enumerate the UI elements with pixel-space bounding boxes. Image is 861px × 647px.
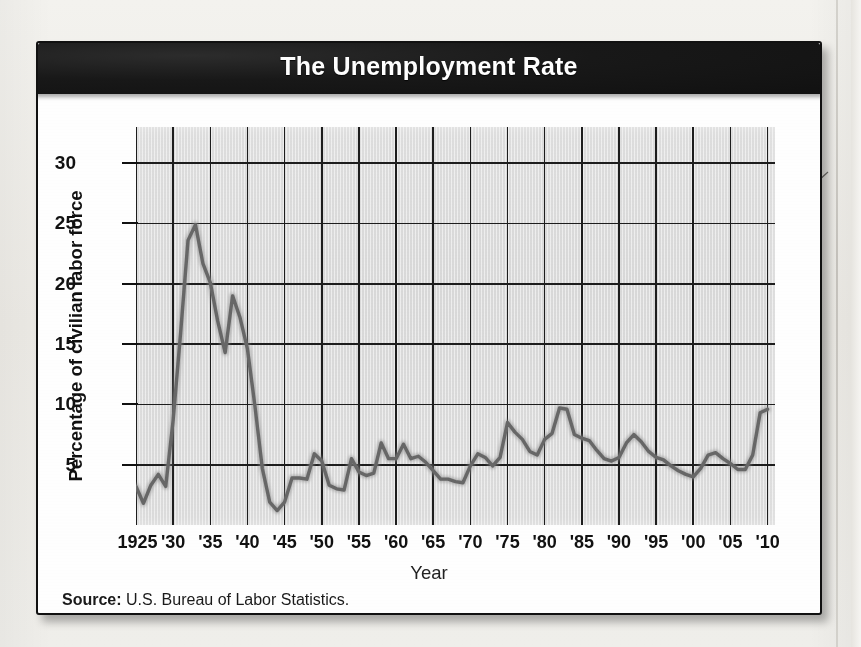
source-note: Source: U.S. Bureau of Labor Statistics. <box>62 591 349 609</box>
x-axis-tick-label: '45 <box>272 532 296 553</box>
y-axis-tick-label: 5 <box>38 454 76 476</box>
x-axis-tick-label: '75 <box>495 532 519 553</box>
figure-card: The Unemployment Rate Percentage of civi… <box>36 41 822 615</box>
source-text: U.S. Bureau of Labor Statistics. <box>122 591 350 608</box>
x-axis-ticks: 1925'30'35'40'45'50'55'60'65'70'75'80'85… <box>122 532 790 558</box>
x-axis-tick-label: '55 <box>347 532 371 553</box>
y-axis-tick-mark <box>122 403 138 405</box>
page-title: The Unemployment Rate <box>38 43 820 94</box>
x-axis-tick-label: '70 <box>458 532 482 553</box>
y-axis-tick-label: 15 <box>38 333 76 355</box>
x-axis-tick-label: '50 <box>310 532 334 553</box>
plot-area <box>136 127 775 525</box>
x-axis-tick-label: '90 <box>607 532 631 553</box>
x-axis-tick-label: '30 <box>161 532 185 553</box>
x-axis-title: Year <box>38 562 820 584</box>
x-axis-tick-label: '65 <box>421 532 445 553</box>
page-outer-edge <box>851 0 861 647</box>
x-axis-tick-label: '80 <box>533 532 557 553</box>
x-axis-tick-label: 1925 <box>118 532 158 553</box>
y-axis-tick-label: 10 <box>38 393 76 415</box>
y-axis-tick-mark <box>122 464 138 466</box>
x-axis-tick-label: '95 <box>644 532 668 553</box>
y-axis-tick-mark <box>122 283 138 285</box>
page-margin-rule <box>836 0 838 647</box>
y-axis-tick-label: 25 <box>38 212 76 234</box>
y-axis-tick-mark <box>122 222 138 224</box>
y-axis-tick-mark <box>122 162 138 164</box>
x-axis-tick-label: '05 <box>718 532 742 553</box>
x-axis-tick-label: '00 <box>681 532 705 553</box>
x-axis-tick-label: '10 <box>755 532 779 553</box>
source-label: Source: <box>62 591 122 608</box>
title-bar: The Unemployment Rate <box>38 43 820 94</box>
chart-canvas <box>136 127 775 525</box>
x-axis-tick-label: '85 <box>570 532 594 553</box>
y-axis-tick-mark <box>122 343 138 345</box>
x-axis-tick-label: '60 <box>384 532 408 553</box>
y-axis-tick-label: 20 <box>38 273 76 295</box>
x-axis-tick-label: '40 <box>235 532 259 553</box>
y-axis-tick-label: 30 <box>38 152 76 174</box>
x-axis-tick-label: '35 <box>198 532 222 553</box>
